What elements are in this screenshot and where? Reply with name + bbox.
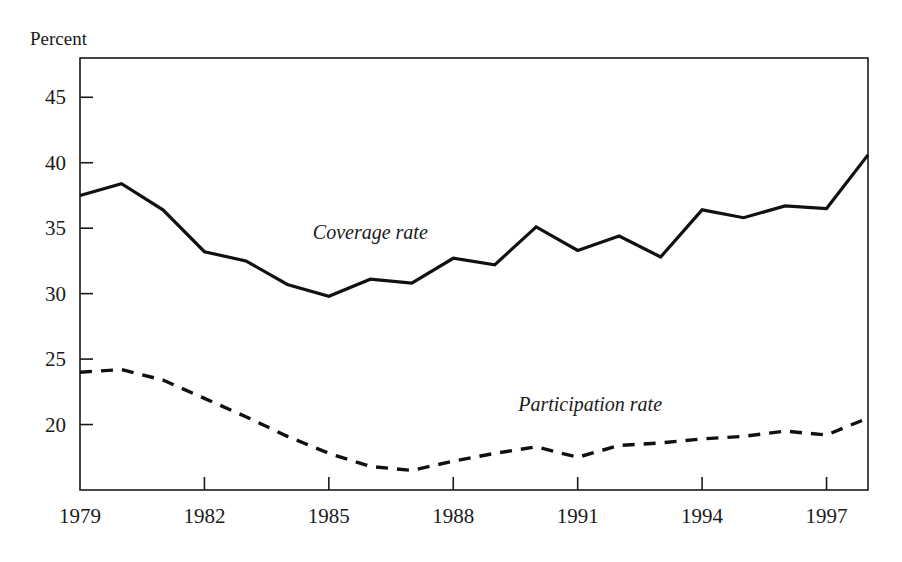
series-label-coverage-rate: Coverage rate (313, 221, 428, 244)
chart-figure: Percent 454035302520 1979198219851988199… (0, 0, 902, 562)
x-tick-label: 1991 (557, 504, 599, 528)
y-axis-title: Percent (30, 28, 88, 49)
y-tick-label: 40 (45, 151, 66, 175)
y-tick-label: 25 (45, 347, 66, 371)
series-labels: Coverage rateParticipation rate (313, 221, 662, 417)
x-tick-label: 1979 (59, 504, 101, 528)
y-tick-label: 35 (45, 216, 66, 240)
y-tick-label: 30 (45, 282, 66, 306)
y-axis-ticks: 454035302520 (45, 85, 93, 436)
x-tick-label: 1985 (308, 504, 350, 528)
line-chart: Percent 454035302520 1979198219851988199… (0, 0, 902, 562)
series-line-participation-rate (80, 370, 868, 471)
y-tick-label: 20 (45, 413, 66, 437)
series-group (80, 155, 868, 470)
y-tick-label: 45 (45, 85, 66, 109)
x-tick-label: 1988 (432, 504, 474, 528)
plot-frame (80, 58, 868, 490)
x-tick-label: 1982 (183, 504, 225, 528)
x-tick-label: 1997 (806, 504, 848, 528)
series-label-participation-rate: Participation rate (517, 393, 662, 416)
series-line-coverage-rate (80, 155, 868, 296)
x-axis-ticks: 1979198219851988199119941997 (59, 477, 848, 528)
x-tick-label: 1994 (681, 504, 724, 528)
